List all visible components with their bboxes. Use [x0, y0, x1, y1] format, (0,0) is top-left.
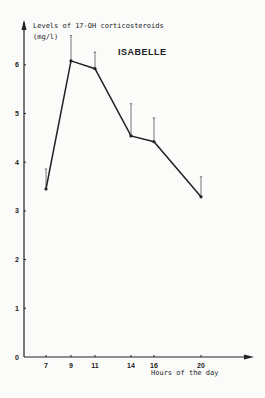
x-axis-arrow-icon — [244, 355, 254, 360]
y-axis-unit: (mg/l) — [33, 33, 58, 41]
y-tick-label: 5 — [15, 110, 19, 117]
data-point — [129, 134, 132, 137]
data-point — [199, 195, 202, 198]
x-tick-label: 9 — [69, 362, 73, 369]
x-tick-label: 16 — [150, 362, 158, 369]
x-tick-label: 7 — [44, 362, 48, 369]
chart-canvas: 01234567911141620Levels of 17-OH cortico… — [0, 0, 265, 398]
data-point — [93, 67, 96, 70]
data-point — [44, 187, 47, 190]
x-tick-label: 14 — [127, 362, 135, 369]
y-tick-label: 6 — [15, 61, 19, 68]
data-point — [69, 59, 72, 62]
x-tick-label: 20 — [197, 362, 205, 369]
y-tick-label: 4 — [15, 159, 19, 166]
data-point — [152, 140, 155, 143]
y-tick-label: 0 — [15, 354, 19, 361]
y-tick-label: 1 — [15, 305, 19, 312]
chart-title: ISABELLE — [118, 47, 167, 57]
x-tick-label: 11 — [91, 362, 99, 369]
y-tick-label: 2 — [15, 256, 19, 263]
y-axis-label: Levels of 17-OH corticosteroids — [33, 22, 164, 30]
data-line — [46, 61, 201, 197]
y-tick-label: 3 — [15, 207, 19, 214]
x-axis-label: Hours of the day — [151, 369, 218, 377]
y-axis-arrow-icon — [22, 20, 27, 30]
